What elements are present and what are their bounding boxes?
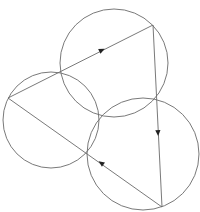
diagram-svg bbox=[0, 0, 200, 212]
circle-left bbox=[3, 72, 99, 168]
arrowhead-icon bbox=[155, 130, 160, 136]
circles-group bbox=[3, 9, 199, 210]
miquel-circles-diagram bbox=[0, 0, 200, 212]
direction-arrows-group bbox=[98, 49, 160, 167]
triangle-edge-CA bbox=[8, 98, 162, 207]
triangle-edge-AB bbox=[8, 25, 153, 98]
arrowhead-icon bbox=[98, 49, 105, 54]
triangle-edges-group bbox=[8, 25, 162, 207]
triangle-edge-BC bbox=[153, 25, 162, 207]
